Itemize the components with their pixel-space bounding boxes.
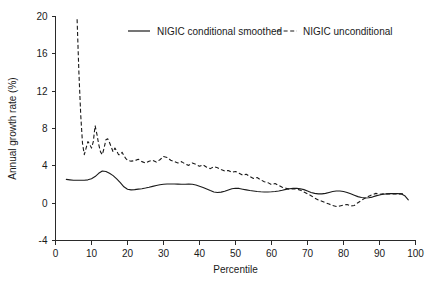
chart-svg: -4048121620 0102030405060708090100 NIGIC… <box>0 0 437 290</box>
y-tick-label: 12 <box>36 86 48 97</box>
x-tick-label: 60 <box>266 248 278 259</box>
data-series-group <box>66 19 408 206</box>
x-axis-ticks: 0102030405060708090100 <box>53 241 425 259</box>
x-tick-label: 0 <box>53 248 59 259</box>
series-line-1 <box>66 171 408 200</box>
x-tick-label: 90 <box>374 248 386 259</box>
x-tick-label: 100 <box>407 248 424 259</box>
x-axis-title: Percentile <box>213 264 258 275</box>
y-tick-label: 20 <box>36 11 48 22</box>
chart-legend: NIGIC conditional smoothedNIGIC uncondit… <box>128 26 393 37</box>
y-tick-label: 8 <box>42 123 48 134</box>
x-tick-label: 20 <box>122 248 134 259</box>
x-tick-label: 80 <box>338 248 350 259</box>
chart-figure: -4048121620 0102030405060708090100 NIGIC… <box>0 0 437 290</box>
y-tick-label: 4 <box>42 160 48 171</box>
y-tick-label: 16 <box>36 48 48 59</box>
x-tick-label: 50 <box>230 248 242 259</box>
x-tick-label: 40 <box>194 248 206 259</box>
series-line-2 <box>77 19 405 206</box>
y-tick-label: -4 <box>39 235 48 246</box>
legend-label-2: NIGIC unconditional <box>303 26 393 37</box>
legend-label-1: NIGIC conditional smoothed <box>157 26 282 37</box>
y-axis-ticks: -4048121620 <box>36 11 55 246</box>
x-tick-label: 70 <box>302 248 314 259</box>
x-tick-label: 30 <box>158 248 170 259</box>
y-axis-title: Annual growth rate (%) <box>7 77 18 179</box>
y-tick-label: 0 <box>42 198 48 209</box>
x-tick-label: 10 <box>86 248 98 259</box>
